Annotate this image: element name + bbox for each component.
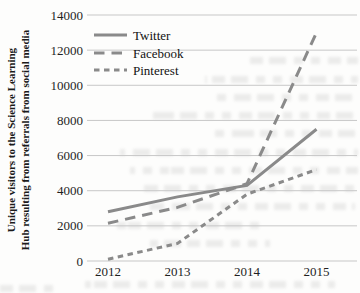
x-tick-label: 2015 bbox=[304, 264, 330, 279]
y-tick-label: 14000 bbox=[51, 8, 84, 23]
x-tick-label: 2012 bbox=[95, 264, 121, 279]
facebook-line bbox=[108, 33, 317, 224]
y-tick-label: 0 bbox=[77, 254, 84, 269]
scanned-chart-page: Unique visitors to the Science Learning … bbox=[0, 0, 360, 293]
y-tick-label: 2000 bbox=[57, 218, 83, 233]
legend-label-pinterest: Pinterest bbox=[133, 63, 179, 78]
y-tick-label: 10000 bbox=[51, 78, 84, 93]
twitter-line bbox=[108, 129, 317, 212]
x-tick-label: 2013 bbox=[165, 264, 191, 279]
chart-svg: 1400012000100008000600040002000020122013… bbox=[0, 0, 360, 293]
legend-label-facebook: Facebook bbox=[133, 46, 184, 61]
pinterest-line bbox=[108, 170, 317, 260]
y-tick-label: 8000 bbox=[57, 113, 83, 128]
y-tick-label: 6000 bbox=[57, 148, 83, 163]
x-tick-label: 2014 bbox=[234, 264, 261, 279]
legend-label-twitter: Twitter bbox=[133, 28, 171, 43]
y-tick-label: 4000 bbox=[57, 183, 83, 198]
y-tick-label: 12000 bbox=[51, 43, 84, 58]
